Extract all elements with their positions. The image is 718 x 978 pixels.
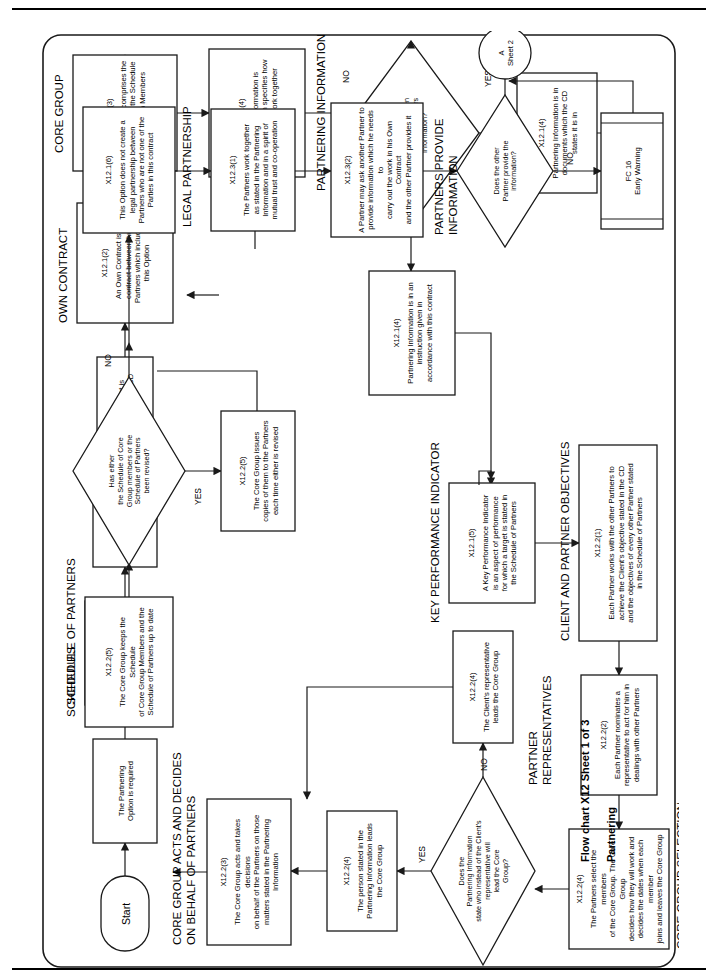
node-x1231-ref: X12.3(1): [228, 155, 238, 184]
decision-revised-no-label: NO: [103, 354, 113, 367]
node-x1215-text: A Key Performance Indicator is an aspect…: [481, 495, 519, 592]
node-x1224-person-text: The person stated in the Partnering Info…: [356, 823, 384, 918]
node-x1231-text: The Partners work together as stated in …: [242, 121, 280, 220]
decision-revised-yes-label: YES: [193, 488, 203, 505]
node-x1232-ref: X12.3(2): [343, 155, 353, 184]
decision-provide-no-label: NO: [565, 152, 575, 165]
label-core-group: CORE GROUP: [53, 74, 65, 153]
label-partners-provide-1: PARTNERS PROVIDE: [433, 118, 445, 235]
node-x1232-text: A Partner may ask another Partner to pro…: [357, 107, 413, 233]
decision-instruction-no-label: NO: [341, 70, 351, 83]
sheet-caption-line1: Flow chart X12 Sheet 1 of 3: [579, 720, 592, 862]
decision-partner-provides-text: Does the other Partner provide the infor…: [479, 115, 533, 227]
node-x1216: X12.1(6) This Option does not create a l…: [83, 107, 175, 233]
node-x1223: X12.2(3) The Core Group acts and takes d…: [207, 799, 291, 945]
node-x1232: X12.3(2) A Partner may ask another Partn…: [331, 103, 423, 237]
node-x1224-client-ref: X12.2(4): [468, 672, 478, 701]
node-x1225-issues-ref: X12.2(5): [238, 456, 248, 485]
node-x1223-ref: X12.2(3): [219, 857, 229, 886]
label-core-group-selection: CORE GROUP SELECTION: [675, 802, 679, 949]
decision-lead-core-group: Does the Partnering Information state wh…: [417, 758, 535, 965]
sheet-caption: Flow chart X12 Sheet 1 of 3 Partnering: [566, 720, 631, 862]
node-x1214-yes: X12.1(4) Partnering Information is in an…: [369, 271, 455, 395]
node-start-label: Start: [120, 903, 132, 925]
label-partner-representatives-2: REPRESENTATIVES: [541, 675, 553, 785]
node-x1224-person-ref: X12.2(4): [342, 856, 352, 885]
label-client-and-partner-objectives: CLIENT AND PARTNER OBJECTIVES: [559, 441, 571, 641]
node-x1225-keeps-ref: X12.2(5): [104, 647, 114, 676]
decision-lead-no-label: NO: [479, 758, 489, 771]
label-partner-representatives-1: PARTNER: [527, 731, 539, 785]
node-x1212-text: An Own Contract is a contract between tw…: [114, 223, 152, 303]
node-x1216-ref: X12.1(6): [104, 155, 114, 184]
node-x1221-ref: X12.2(1): [593, 528, 603, 557]
label-partnering-information: PARTNERING INFORMATION: [315, 34, 327, 191]
label-schedules: SCHEDULES: [65, 646, 77, 717]
node-x1223-text: The Core Group acts and takes decisions …: [233, 803, 280, 941]
node-x1224-client: X12.2(4) The Client's representative lea…: [453, 631, 513, 743]
decision-lead-yes-label: YES: [417, 846, 427, 863]
node-x1221: X12.2(1) Each Partner works with the oth…: [579, 445, 657, 641]
node-x1225-issues: X12.2(5) The Core Group issues copies of…: [221, 411, 295, 531]
node-x1216-text: This Option does not create a legal part…: [118, 117, 156, 223]
node-x1215: X12.1(5) A Key Performance Indicator is …: [449, 483, 535, 603]
node-x1231: X12.3(1) The Partners work together as s…: [211, 109, 295, 231]
node-x1225-issues-text: The Core Group issues copies of them to …: [252, 420, 280, 521]
node-x1214-yes-text: Partnering Information is in an instruct…: [406, 282, 434, 383]
label-core-group-acts-2: ON BEHALF OF PARTNERS: [185, 796, 197, 945]
label-core-group-acts-1: CORE GROUP ACTS AND DECIDES: [171, 752, 183, 945]
node-x1214-no-ref: X12.1(4): [537, 118, 547, 147]
node-x1224-select-ref: X12.2(4): [575, 874, 585, 903]
node-x1224-client-text: The Client's representative leads the Co…: [482, 642, 501, 732]
page-canvas: Start The Partnering Option is required …: [0, 0, 718, 978]
node-x1215-ref: X12.1(5): [467, 528, 477, 557]
label-key-performance-indicator: KEY PERFORMANCE INDICATOR: [429, 442, 441, 623]
node-partnering-option: The Partnering Option is required: [93, 739, 157, 843]
page-rule-top: [12, 8, 706, 10]
node-x1225-keeps-text: The Core Group keeps the Schedule of Cor…: [118, 601, 156, 723]
node-x1225-keeps: X12.2(5) The Core Group keeps the Schedu…: [85, 597, 173, 727]
label-partners-provide-2: INFORMATION: [447, 155, 459, 235]
label-own-contract: OWN CONTRACT: [57, 228, 69, 323]
node-x1221-text: Each Partner works with the other Partne…: [607, 463, 645, 623]
node-connector-a-text: A Sheet 2: [489, 31, 523, 75]
node-fc16-text: FC 16 Early Warning: [613, 127, 653, 215]
node-fc16: FC 16 Early Warning: [601, 113, 663, 229]
node-start: Start: [101, 876, 149, 951]
node-x1212-ref: X12.1(2): [100, 248, 110, 277]
node-partnering-option-text: The Partnering Option is required: [97, 741, 155, 841]
decision-schedule-revised-text: Has either the Schedule of Core Group me…: [93, 413, 167, 529]
sheet-caption-line2: Partnering: [605, 720, 618, 862]
label-legal-partnership: LEGAL PARTNERSHIP: [181, 106, 193, 227]
decision-lead-core-group-text: Does the Partnering Information state wh…: [447, 805, 521, 937]
node-x1214-yes-ref: X12.1(4): [392, 318, 402, 347]
node-connector-a: A Sheet 2: [479, 31, 531, 79]
node-x1224-person: X12.2(4) The person stated in the Partne…: [327, 811, 397, 931]
